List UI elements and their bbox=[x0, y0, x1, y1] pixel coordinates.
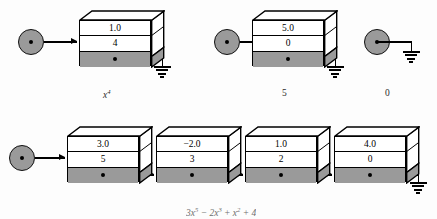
diagram-canvas: 1.0 4 x4 5.0 bbox=[0, 0, 437, 219]
cell-coefficient: −2.0 bbox=[157, 137, 227, 152]
caption-term-3: + 4 bbox=[243, 208, 257, 218]
head-pointer-circle-x4 bbox=[18, 29, 44, 55]
head-pointer-circle-5 bbox=[214, 29, 240, 55]
cell-pointer-field bbox=[157, 168, 227, 183]
ground-symbol-icon bbox=[403, 51, 420, 63]
cell-front-face: 4.0 0 bbox=[334, 136, 406, 182]
head-pointer-circle-polynomial bbox=[9, 145, 35, 171]
cell-pointer-field bbox=[80, 52, 150, 67]
pointer-dot-icon bbox=[190, 173, 194, 177]
caption-term-1: − 2x3 bbox=[201, 208, 222, 218]
pointer-dot-icon bbox=[368, 173, 372, 177]
arrowhead-icon bbox=[59, 154, 65, 160]
cell-pointer-field bbox=[335, 168, 405, 183]
pointer-dot-icon bbox=[113, 57, 117, 61]
pointer-dot-icon bbox=[29, 40, 33, 44]
wire-head-to-ground-zero bbox=[377, 41, 412, 42]
cell-coefficient: 1.0 bbox=[246, 137, 316, 152]
caption-chain-polynomial: 3x5 − 2x3 + x2 + 4 bbox=[186, 206, 256, 219]
caption-term-0: 3x5 bbox=[186, 208, 198, 218]
cell-exponent: 2 bbox=[246, 152, 316, 167]
pointer-dot-icon bbox=[279, 173, 283, 177]
cell-pointer-field bbox=[68, 168, 138, 183]
cell-exponent: 5 bbox=[68, 152, 138, 167]
cell-front-face: 1.0 2 bbox=[245, 136, 317, 182]
pointer-dot-icon bbox=[225, 40, 229, 44]
cell-pointer-field bbox=[246, 168, 316, 183]
cell-top-face bbox=[156, 126, 228, 136]
pointer-dot-icon bbox=[101, 173, 105, 177]
caption-chain-zero: 0 bbox=[385, 88, 390, 98]
pointer-dot-icon bbox=[20, 156, 24, 160]
caption-term-2: + x2 bbox=[224, 208, 240, 218]
cell-front-face: −2.0 3 bbox=[156, 136, 228, 182]
arrowhead-icon bbox=[71, 38, 77, 44]
cell-top-face bbox=[79, 10, 151, 20]
cell-coefficient: 1.0 bbox=[80, 21, 150, 36]
cell-top-face bbox=[67, 126, 139, 136]
cell-exponent: 3 bbox=[157, 152, 227, 167]
cell-coefficient: 5.0 bbox=[253, 21, 323, 36]
cell-coefficient: 4.0 bbox=[335, 137, 405, 152]
cell-exponent: 0 bbox=[253, 36, 323, 51]
cell-top-face bbox=[252, 10, 324, 20]
pointer-dot-icon bbox=[286, 57, 290, 61]
cell-top-face bbox=[334, 126, 406, 136]
caption-chain-5: 5 bbox=[282, 88, 287, 98]
cell-pointer-field bbox=[253, 52, 323, 67]
cell-exponent: 0 bbox=[335, 152, 405, 167]
cell-front-face: 1.0 4 bbox=[79, 20, 151, 66]
caption-chain-x4: x4 bbox=[103, 88, 111, 100]
cell-front-face: 3.0 5 bbox=[67, 136, 139, 182]
cell-top-face bbox=[245, 126, 317, 136]
cell-front-face: 5.0 0 bbox=[252, 20, 324, 66]
cell-exponent: 4 bbox=[80, 36, 150, 51]
cell-coefficient: 3.0 bbox=[68, 137, 138, 152]
